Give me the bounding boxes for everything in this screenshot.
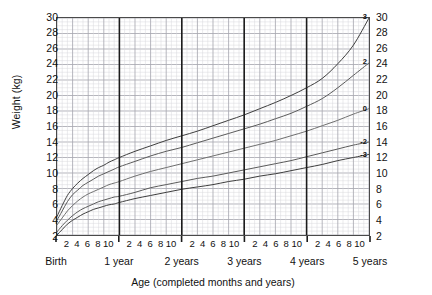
y-tick-label-left: 18 — [30, 105, 58, 116]
curve-end-label-neg2: -2 — [351, 138, 367, 146]
y-tick-label-right: 28 — [376, 27, 404, 38]
x-month-tick-label: 10 — [289, 239, 305, 249]
plot-area — [56, 17, 370, 236]
y-tick-label-right: 18 — [376, 105, 404, 116]
y-tick-label-right: 2 — [376, 231, 404, 242]
x-month-tick-label: 10 — [100, 239, 116, 249]
y-tick-label-left: 2 — [30, 231, 58, 242]
y-tick-label-left: 30 — [30, 12, 58, 23]
y-tick-label-left: 26 — [30, 43, 58, 54]
y-tick-label-left: 8 — [30, 184, 58, 195]
y-tick-label-left: 10 — [30, 168, 58, 179]
y-tick-label-right: 30 — [376, 12, 404, 23]
curve-end-label-2: 2 — [351, 58, 367, 66]
y-tick-label-right: 6 — [376, 199, 404, 210]
x-year-label: 4 years — [272, 256, 342, 267]
curve-end-label-3: 3 — [351, 13, 367, 21]
x-year-label: Birth — [21, 256, 91, 267]
x-year-label: 1 year — [84, 256, 154, 267]
y-tick-label-left: 4 — [30, 215, 58, 226]
y-tick-label-right: 20 — [376, 90, 404, 101]
y-tick-label-left: 28 — [30, 27, 58, 38]
y-tick-label-right: 12 — [376, 152, 404, 163]
y-tick-label-right: 10 — [376, 168, 404, 179]
x-month-tick-label: 10 — [226, 239, 242, 249]
y-tick-label-right: 4 — [376, 215, 404, 226]
y-tick-label-left: 24 — [30, 58, 58, 69]
x-year-label: 5 years — [335, 256, 405, 267]
y-tick-label-right: 16 — [376, 121, 404, 132]
y-tick-label-right: 26 — [376, 43, 404, 54]
y-tick-label-right: 14 — [376, 137, 404, 148]
y-tick-label-right: 24 — [376, 58, 404, 69]
y-tick-label-left: 20 — [30, 90, 58, 101]
y-tick-label-left: 12 — [30, 152, 58, 163]
y-axis-title: Weight (kg) — [10, 52, 22, 152]
y-tick-label-left: 22 — [30, 74, 58, 85]
y-tick-label-left: 6 — [30, 199, 58, 210]
y-tick-label-left: 16 — [30, 121, 58, 132]
year-divider-lines — [57, 18, 369, 235]
y-tick-label-right: 22 — [376, 74, 404, 85]
x-month-tick-label: 10 — [163, 239, 179, 249]
curve-end-label-0: 0 — [351, 105, 367, 113]
curve-end-label-neg3: -3 — [351, 151, 367, 159]
growth-chart: Weight (kg) 24681012141618202224262830 2… — [0, 0, 432, 295]
x-axis-title: Age (completed months and years) — [56, 276, 370, 288]
x-month-tick-label: 10 — [352, 239, 368, 249]
x-year-label: 2 years — [147, 256, 217, 267]
y-tick-label-right: 8 — [376, 184, 404, 195]
y-tick-label-left: 14 — [30, 137, 58, 148]
x-year-label: 3 years — [209, 256, 279, 267]
